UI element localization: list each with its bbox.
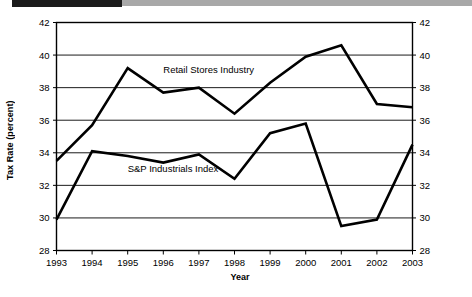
y-tick-label-left-28: 28	[39, 245, 50, 256]
y-tick-label-right-28: 28	[420, 245, 431, 256]
x-tick-label-1998: 1998	[224, 257, 245, 268]
x-tick-label-2003: 2003	[402, 257, 423, 268]
y-tick-label-right-36: 36	[420, 115, 431, 126]
plot-frame	[57, 23, 413, 251]
y-tick-label-left-32: 32	[39, 180, 50, 191]
x-tick-label-2000: 2000	[295, 257, 316, 268]
y-tick-label-left-40: 40	[39, 50, 50, 61]
y-axis-tick-labels-left: 2830323436384042	[39, 17, 50, 256]
x-tick-label-1993: 1993	[46, 257, 67, 268]
x-tick-label-1999: 1999	[260, 257, 281, 268]
series-line-s-p-industrials-index	[57, 123, 413, 226]
series-line-retail-stores-industry	[57, 45, 413, 161]
series-annotation-retail-stores-industry: Retail Stores Industry	[163, 64, 254, 75]
line-chart-figure: Tax Rate (percent) 2830323436384042 2830…	[0, 0, 472, 297]
y-tick-label-right-38: 38	[420, 82, 431, 93]
gridlines-group	[57, 55, 413, 218]
y-tick-label-right-40: 40	[420, 50, 431, 61]
x-axis-title: Year	[230, 272, 249, 282]
axis-tickmarks-group	[53, 23, 416, 255]
y-tick-label-right-32: 32	[420, 180, 431, 191]
y-tick-label-left-36: 36	[39, 115, 50, 126]
series-annotation-s-p-industrials-index: S&P Industrials Index	[128, 163, 219, 174]
chart-plot-area: 2830323436384042 2830323436384042 199319…	[0, 0, 472, 297]
x-tick-label-2002: 2002	[366, 257, 387, 268]
x-tick-label-1995: 1995	[117, 257, 138, 268]
x-tick-label-2001: 2001	[331, 257, 352, 268]
x-tick-label-1994: 1994	[82, 257, 103, 268]
x-axis-title-wrapper: Year	[0, 272, 472, 282]
y-tick-label-right-30: 30	[420, 212, 431, 223]
x-tick-label-1996: 1996	[153, 257, 174, 268]
y-tick-label-left-42: 42	[39, 17, 50, 28]
y-tick-label-right-34: 34	[420, 147, 431, 158]
x-tick-label-1997: 1997	[188, 257, 209, 268]
y-tick-label-right-42: 42	[420, 17, 431, 28]
x-axis-tick-labels: 1993199419951996199719981999200020012002…	[46, 257, 423, 268]
y-axis-tick-labels-right: 2830323436384042	[420, 17, 431, 256]
y-tick-label-left-38: 38	[39, 82, 50, 93]
y-tick-label-left-34: 34	[39, 147, 50, 158]
y-tick-label-left-30: 30	[39, 212, 50, 223]
